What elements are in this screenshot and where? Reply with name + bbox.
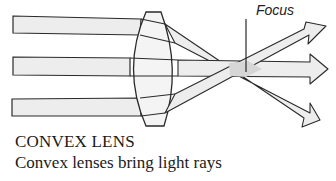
convex-lens-diagram: Focus [0, 0, 336, 130]
incoming-beam-top [13, 16, 141, 35]
incoming-beam-middle [13, 57, 130, 76]
caption-text: Convex lenses bring light rays [15, 153, 222, 173]
incoming-beam-bottom [12, 98, 141, 116]
incoming-beams [12, 16, 141, 116]
focus-label: Focus [256, 2, 294, 18]
convex-lens [134, 12, 173, 126]
caption-title: CONVEX LENS [15, 132, 135, 152]
